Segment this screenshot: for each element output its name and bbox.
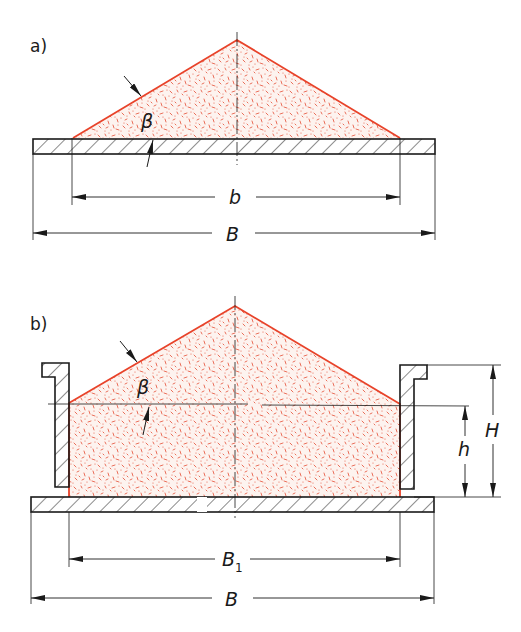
angle-arrow-top [120,341,137,362]
panel-a-label: a) [30,36,47,56]
angle-beta-label: β [140,110,153,132]
left-container-wall [42,363,69,487]
dimension-B1-label: B1 [222,548,243,575]
panel-b-label: b) [30,314,47,334]
base-plate [33,139,435,154]
material-heap [73,40,400,138]
panel-a: a) β b B [30,32,435,245]
bulk-material-diagram: a) β b B b) [0,0,521,632]
dimension-b-label: b [229,186,241,208]
dimension-B-label: B [225,588,238,610]
dimension-h-label: h [458,438,470,460]
dimension-H-label: H [485,419,499,441]
panel-b: b) β B1 B [30,296,501,610]
angle-beta-label: β [136,376,149,398]
dimension-B-label: B [226,223,239,245]
plate-break [197,497,207,512]
right-container-wall [400,365,427,489]
material-fill [69,306,400,497]
base-plate [31,497,434,512]
angle-arrow-top [124,76,141,96]
